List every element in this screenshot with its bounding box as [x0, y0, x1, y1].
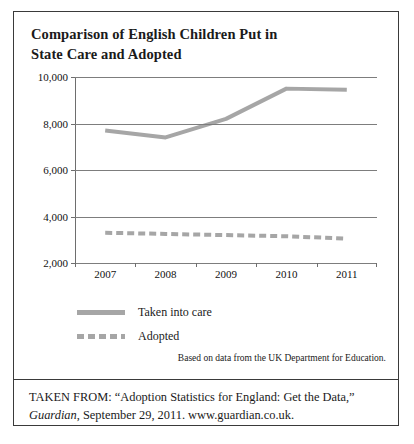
legend-swatch-solid-icon: [77, 310, 125, 315]
page-title: Comparison of English Children Put in St…: [31, 24, 371, 64]
x-tick-label: 2007: [75, 269, 135, 280]
y-axis: 10,0008,0006,0004,0002,000: [20, 77, 68, 282]
title-line-1: Comparison of English Children Put in: [31, 24, 371, 44]
y-tick-label: 6,000: [22, 165, 68, 176]
y-tick-mark: [71, 217, 75, 218]
legend-label-taken-into-care: Taken into care: [138, 306, 212, 318]
gridline: [75, 263, 377, 264]
citation-divider: [14, 379, 398, 380]
x-tick-mark: [376, 263, 377, 267]
x-tick-mark: [75, 263, 76, 267]
citation-line-2-rest: , September 29, 2011. www.guardian.co.uk…: [77, 408, 294, 422]
series-line-adopted: [105, 233, 347, 239]
legend-label-adopted: Adopted: [138, 330, 179, 342]
citation-line-2: Guardian, September 29, 2011. www.guardi…: [29, 407, 387, 425]
series-line-taken-into-care: [105, 89, 347, 138]
citation-line-1: TAKEN FROM: “Adoption Statistics for Eng…: [29, 389, 387, 407]
gridline: [75, 170, 377, 171]
citation-publication: Guardian: [29, 408, 77, 422]
chart-legend: Taken into care Adopted: [77, 300, 357, 348]
source-note: Based on data from the UK Department for…: [14, 353, 386, 363]
figure-container: Comparison of English Children Put in St…: [13, 11, 399, 426]
y-tick-label: 4,000: [22, 212, 68, 223]
y-tick-mark: [71, 124, 75, 125]
citation: TAKEN FROM: “Adoption Statistics for Eng…: [29, 389, 387, 424]
x-tick-mark: [256, 263, 257, 267]
gridline: [75, 77, 377, 78]
legend-item-taken-into-care: Taken into care: [77, 300, 357, 324]
x-tick-label: 2011: [317, 269, 377, 280]
x-tick-label: 2009: [196, 269, 256, 280]
x-tick-label: 2010: [256, 269, 316, 280]
gridline: [75, 124, 377, 125]
y-tick-mark: [71, 77, 75, 78]
x-tick-mark: [196, 263, 197, 267]
plot-area: [75, 77, 377, 263]
gridline: [75, 217, 377, 218]
y-tick-label: 2,000: [22, 258, 68, 269]
title-line-2: State Care and Adopted: [31, 44, 371, 64]
x-tick-label: 2008: [136, 269, 196, 280]
line-chart: 10,0008,0006,0004,0002,000 2007200820092…: [14, 77, 400, 282]
legend-swatch-dashed-icon: [77, 334, 125, 339]
y-tick-mark: [71, 170, 75, 171]
x-tick-mark: [317, 263, 318, 267]
x-axis: 20072008200920102011: [75, 269, 377, 285]
legend-item-adopted: Adopted: [77, 324, 357, 348]
x-tick-mark: [135, 263, 136, 267]
y-tick-label: 8,000: [22, 119, 68, 130]
y-tick-label: 10,000: [22, 72, 68, 83]
